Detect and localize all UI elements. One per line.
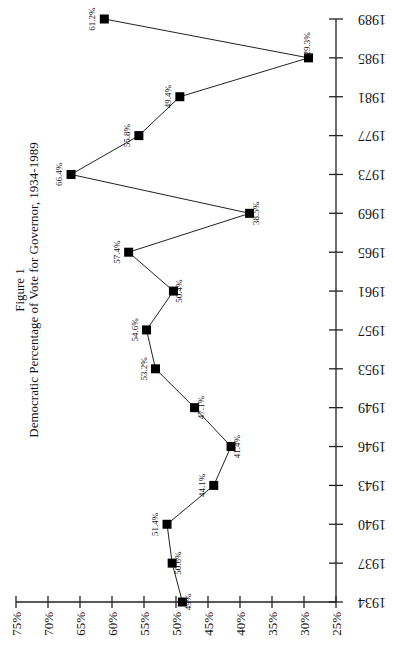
series-line — [71, 19, 308, 602]
data-label: 47.1% — [196, 396, 206, 420]
data-label: 41.4% — [232, 434, 242, 458]
category-tick-label: 1969 — [358, 206, 386, 221]
category-tick-label: 1940 — [358, 517, 386, 532]
data-label: 54.6% — [130, 318, 140, 342]
value-tick-label: 70% — [41, 612, 56, 636]
data-point-marker — [67, 170, 76, 179]
category-tick-label: 1965 — [358, 245, 386, 260]
category-tick-label: 1989 — [358, 12, 386, 27]
category-tick-label: 1961 — [358, 284, 386, 299]
data-label: 49.4% — [163, 85, 173, 109]
data-label: 66.4% — [54, 162, 64, 186]
data-point-marker — [163, 520, 172, 529]
data-point-marker — [209, 481, 218, 490]
data-series: 49%50.6%51.4%44.1%41.4%47.1%53.2%54.6%50… — [54, 7, 313, 610]
axes: 25%30%35%40%45%50%55%60%65%70%75%1934193… — [9, 12, 386, 636]
data-point-marker — [100, 15, 109, 24]
data-label: 53.2% — [139, 357, 149, 381]
data-label: 38.5% — [251, 201, 261, 225]
value-tick-label: 25% — [329, 612, 344, 636]
value-tick-label: 45% — [201, 612, 216, 636]
category-tick-label: 1977 — [358, 128, 386, 143]
value-tick-label: 30% — [297, 612, 312, 636]
data-label: 49% — [183, 593, 193, 610]
line-chart: Figure 1 Democratic Percentage of Vote f… — [0, 0, 394, 646]
data-label: 57.4% — [112, 240, 122, 264]
data-label: 50.6% — [173, 551, 183, 575]
value-tick-label: 65% — [73, 612, 88, 636]
data-label: 29.3% — [302, 32, 312, 56]
category-tick-label: 1985 — [358, 51, 386, 66]
data-label: 50.4% — [174, 279, 184, 303]
category-tick-label: 1949 — [358, 400, 386, 415]
value-tick-label: 55% — [137, 612, 152, 636]
data-point-marker — [134, 131, 143, 140]
category-tick-label: 1937 — [358, 556, 386, 571]
value-tick-label: 60% — [105, 612, 120, 636]
data-point-marker — [142, 325, 151, 334]
data-label: 61.2% — [87, 7, 97, 31]
data-point-marker — [124, 248, 133, 257]
value-tick-label: 40% — [233, 612, 248, 636]
chart-title-group: Figure 1 Democratic Percentage of Vote f… — [12, 142, 41, 437]
value-tick-label: 75% — [9, 612, 24, 636]
category-tick-label: 1981 — [358, 90, 386, 105]
data-point-marker — [175, 92, 184, 101]
value-tick-label: 50% — [169, 612, 184, 636]
category-tick-label: 1934 — [358, 595, 386, 610]
data-label: 51.4% — [150, 512, 160, 536]
data-point-marker — [151, 364, 160, 373]
data-label: 55.8% — [122, 123, 132, 147]
category-tick-label: 1943 — [358, 478, 386, 493]
chart-title: Figure 1 — [12, 268, 27, 312]
category-tick-label: 1973 — [358, 167, 386, 182]
value-tick-label: 35% — [265, 612, 280, 636]
chart-subtitle: Democratic Percentage of Vote for Govern… — [26, 142, 41, 437]
category-tick-label: 1957 — [358, 323, 386, 338]
data-label: 44.1% — [197, 473, 207, 497]
category-tick-label: 1953 — [358, 362, 386, 377]
category-tick-label: 1946 — [358, 439, 386, 454]
